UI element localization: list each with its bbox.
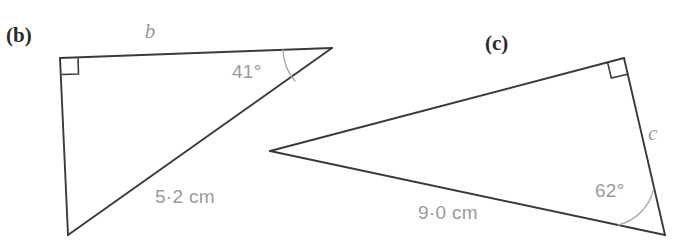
- triangle-c-side-length-label: 9·0 cm: [418, 202, 478, 223]
- triangle-b-angle-label: 41°: [232, 61, 262, 82]
- triangle-b-right-angle-marker: [62, 58, 79, 74]
- part-label-c: (c): [485, 31, 508, 55]
- triangle-c-top-edge: [270, 58, 624, 151]
- part-label-b: (b): [6, 23, 32, 47]
- triangle-c-angle-label: 62°: [595, 180, 625, 201]
- triangle-b-side-label-b: b: [145, 19, 156, 43]
- triangle-c-group: (c) c 62° 9·0 cm: [270, 31, 665, 235]
- triangle-b-group: (b) b 41° 5·2 cm: [6, 19, 332, 235]
- triangle-b-left-edge: [60, 58, 68, 235]
- figure-container: (b) b 41° 5·2 cm (c) c 6: [0, 0, 687, 249]
- geometry-figure: (b) b 41° 5·2 cm (c) c 6: [0, 0, 687, 249]
- triangle-b-top-edge: [60, 48, 332, 58]
- triangle-b-side-length-label: 5·2 cm: [155, 186, 215, 207]
- triangle-c-side-label-c: c: [648, 121, 658, 145]
